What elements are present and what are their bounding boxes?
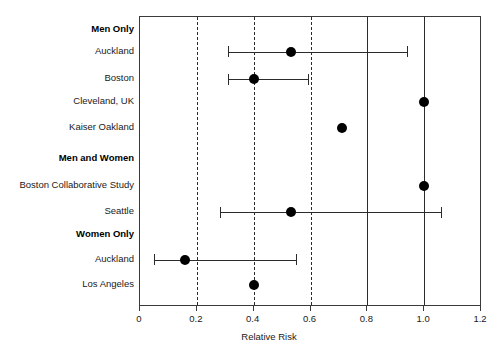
x-axis-title: Relative Risk xyxy=(0,331,502,342)
x-tick xyxy=(196,306,197,311)
x-tick-label: 0.4 xyxy=(246,313,259,324)
point-estimate-marker xyxy=(286,47,296,57)
x-tick-label: 0.6 xyxy=(303,313,316,324)
confidence-interval-line xyxy=(154,260,296,261)
forest-plot: Men OnlyAucklandBostonCleveland, UKKaise… xyxy=(0,0,502,354)
x-axis-title-text: Relative Risk xyxy=(241,331,296,342)
x-tick-label: 1.2 xyxy=(473,313,486,324)
plot-area xyxy=(139,16,481,306)
study-label: Auckland xyxy=(0,46,134,56)
x-tick-label: 0 xyxy=(136,313,141,324)
x-tick xyxy=(139,306,140,311)
confidence-interval-cap-upper xyxy=(407,46,408,57)
study-label: Cleveland, UK xyxy=(0,96,134,106)
x-tick xyxy=(366,306,367,311)
confidence-interval-cap-upper xyxy=(308,74,309,85)
confidence-interval-line xyxy=(220,212,442,213)
group-heading: Men Only xyxy=(0,24,134,34)
x-tick xyxy=(480,306,481,311)
confidence-interval-cap-lower xyxy=(228,46,229,57)
point-estimate-marker xyxy=(337,123,347,133)
x-tick-label: 0.2 xyxy=(189,313,202,324)
reference-line-0-8 xyxy=(367,17,368,305)
study-label: Boston xyxy=(0,73,134,83)
study-label: Seattle xyxy=(0,206,134,216)
reference-line-0-2 xyxy=(197,17,198,305)
reference-line-1 xyxy=(424,17,425,305)
study-label: Auckland xyxy=(0,254,134,264)
confidence-interval-cap-lower xyxy=(220,207,221,218)
point-estimate-marker xyxy=(249,74,259,84)
study-label: Boston Collaborative Study xyxy=(0,180,134,190)
group-heading: Men and Women xyxy=(0,153,134,163)
point-estimate-marker xyxy=(286,207,296,217)
group-heading: Women Only xyxy=(0,229,134,239)
confidence-interval-cap-lower xyxy=(228,74,229,85)
x-tick-label: 1.0 xyxy=(417,313,430,324)
point-estimate-marker xyxy=(419,97,429,107)
x-tick xyxy=(423,306,424,311)
confidence-interval-cap-upper xyxy=(296,254,297,265)
point-estimate-marker xyxy=(180,255,190,265)
confidence-interval-line xyxy=(228,79,308,80)
point-estimate-marker xyxy=(249,280,259,290)
x-tick-label: 0.8 xyxy=(360,313,373,324)
study-label: Kaiser Oakland xyxy=(0,122,134,132)
confidence-interval-cap-upper xyxy=(441,207,442,218)
reference-line-0-4 xyxy=(254,17,255,305)
x-tick xyxy=(310,306,311,311)
reference-line-0-6 xyxy=(311,17,312,305)
point-estimate-marker xyxy=(419,181,429,191)
confidence-interval-line xyxy=(228,52,407,53)
x-tick xyxy=(253,306,254,311)
confidence-interval-cap-lower xyxy=(154,254,155,265)
study-label: Los Angeles xyxy=(0,279,134,289)
